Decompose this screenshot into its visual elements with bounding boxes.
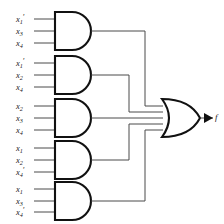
and-gate-2-input-3-label: x4 <box>16 82 22 93</box>
var-subscript: 1 <box>20 188 23 195</box>
and-gate-5-input-3-label: x4′ <box>16 207 24 218</box>
var-prime: ′ <box>22 166 24 175</box>
var-subscript: 4 <box>20 129 23 136</box>
and-gate-2-input-wires <box>34 63 54 87</box>
and-gate-1-input-3-label: x4 <box>16 38 22 49</box>
and-gate-4-input-1-label: x1 <box>16 143 22 154</box>
and-gate-4-output-wire <box>91 124 163 160</box>
and-gate-1-output-wire <box>91 31 163 106</box>
and-gate-2-body <box>55 56 91 94</box>
and-gate-4-input-2-label: x2 <box>16 155 22 166</box>
var-subscript: 1 <box>20 147 23 154</box>
var-subscript: 4 <box>20 86 23 93</box>
and-gate-4-body <box>55 141 91 179</box>
and-gate-1-body <box>55 12 91 50</box>
var-subscript: 3 <box>20 117 23 124</box>
and-gate-1-input-2-label: x3 <box>16 26 22 37</box>
circuit-schematic <box>0 0 224 224</box>
var-subscript: 3 <box>20 30 23 37</box>
output-arrow-icon <box>204 113 213 123</box>
and-gate-3-input-3-label: x4 <box>16 125 22 136</box>
var-prime: ′ <box>22 206 24 215</box>
and-gate-3-body <box>55 99 91 137</box>
and-gate-1-input-1-label: x1′ <box>16 14 24 25</box>
and-gate-5-input-1-label: x1 <box>16 184 22 195</box>
and-gate-5-output-wire <box>91 130 163 201</box>
var-subscript: 2 <box>20 105 23 112</box>
or-gate-body <box>162 99 200 137</box>
var-prime: ′ <box>22 13 24 22</box>
and-gate-3-input-1-label: x2 <box>16 101 22 112</box>
var-subscript: 2 <box>20 74 23 81</box>
and-gate-1-input-wires <box>34 19 54 43</box>
and-gate-2-input-1-label: x1′ <box>16 58 24 69</box>
var-subscript: 4 <box>20 42 23 49</box>
and-gate-4-input-wires <box>34 148 54 172</box>
logic-circuit-diagram: x1′ x3 x4 x1′ x2 x4 x2 x3 x4 x1 x2 x4′ x… <box>0 0 224 224</box>
and-gate-2-input-2-label: x2 <box>16 70 22 81</box>
and-gate-4-input-3-label: x4′ <box>16 167 24 178</box>
and-gate-3-input-2-label: x3 <box>16 113 22 124</box>
and-gate-5-input-wires <box>34 189 54 212</box>
var-prime: ′ <box>22 57 24 66</box>
and-gate-5-body <box>55 182 91 220</box>
and-gate-3-input-wires <box>34 106 54 130</box>
output-label: f <box>215 112 218 122</box>
